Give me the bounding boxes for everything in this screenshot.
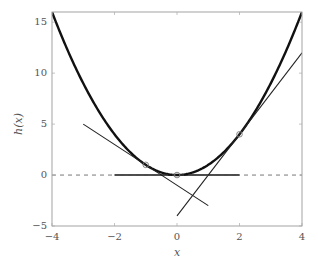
- y-tick-label: 0: [41, 169, 47, 180]
- tangent-line: [177, 53, 302, 216]
- series-group: [52, 12, 302, 216]
- y-axis-label: h(x): [12, 113, 25, 135]
- y-tick-label: 5: [41, 118, 47, 129]
- x-tick-label: 4: [299, 231, 305, 242]
- tangent-line: [83, 124, 208, 206]
- y-tick-label: −5: [32, 220, 47, 231]
- chart-container: −4 −2 0 2 4 −5 0 5 10 15 x h(x): [0, 0, 318, 269]
- curve-line: [52, 12, 302, 175]
- x-tick-label: −2: [107, 231, 122, 242]
- chart-svg: −4 −2 0 2 4 −5 0 5 10 15 x h(x): [0, 0, 318, 269]
- x-axis-label: x: [174, 246, 181, 259]
- x-tick-label: 2: [236, 231, 242, 242]
- x-tick-label: 0: [174, 231, 180, 242]
- plot-area: [52, 12, 302, 216]
- y-tick-label: 15: [34, 16, 47, 27]
- axes: [52, 12, 302, 226]
- x-tick-label: −4: [45, 231, 60, 242]
- tick-labels: −4 −2 0 2 4 −5 0 5 10 15 x h(x): [12, 16, 305, 259]
- y-tick-label: 10: [34, 67, 47, 78]
- axes-frame: [52, 12, 302, 226]
